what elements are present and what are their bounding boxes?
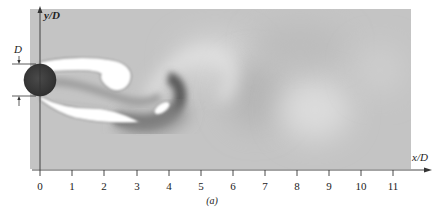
x-axis-arrow-icon bbox=[424, 168, 432, 173]
far-wake-light-right bbox=[355, 45, 405, 95]
far-wake-light-lower bbox=[280, 80, 350, 140]
y-axis-label: y/D bbox=[44, 9, 60, 21]
x-tick-label: 4 bbox=[166, 180, 172, 192]
figure-caption: (a) bbox=[206, 195, 218, 206]
x-tick-label: 5 bbox=[198, 180, 204, 192]
diameter-label: D bbox=[14, 43, 22, 55]
dimension-arrow-down-icon bbox=[17, 60, 20, 64]
x-tick-label: 11 bbox=[388, 180, 399, 192]
vortex-wake-figure: y/D x/D D 0 1 2 3 4 5 6 7 8 9 10 11 (a) bbox=[0, 0, 439, 219]
x-tick-label: 6 bbox=[230, 180, 236, 192]
x-tick-label: 0 bbox=[37, 180, 43, 192]
dimension-arrow-up-icon bbox=[17, 96, 20, 100]
x-tick-label: 7 bbox=[262, 180, 268, 192]
x-tick-label: 2 bbox=[101, 180, 107, 192]
x-axis-label: x/D bbox=[412, 151, 428, 163]
x-tick-label: 3 bbox=[134, 180, 140, 192]
wake-plot bbox=[0, 0, 439, 219]
x-axis-ticks bbox=[40, 170, 393, 176]
x-tick-label: 8 bbox=[294, 180, 300, 192]
x-tick-label: 10 bbox=[356, 180, 367, 192]
far-wake-dark-upper bbox=[255, 25, 345, 65]
x-tick-label: 1 bbox=[69, 180, 75, 192]
x-tick-label: 9 bbox=[326, 180, 332, 192]
